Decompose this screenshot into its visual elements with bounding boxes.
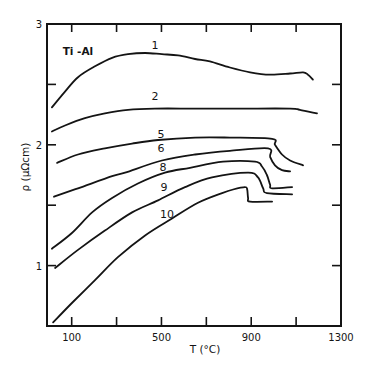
curve-label-9: 9	[160, 181, 167, 194]
y-axis-label: ρ (μΩcm)	[19, 143, 31, 192]
x-tick-label: 100	[62, 332, 81, 343]
curve-2	[52, 109, 317, 132]
curve-label-8: 8	[160, 161, 167, 174]
curve-label-5: 5	[158, 128, 165, 141]
curve-5	[57, 137, 303, 165]
curve-6	[54, 148, 290, 197]
x-tick-label: 500	[152, 332, 171, 343]
curve-label-6: 6	[158, 142, 165, 155]
x-tick-label: 900	[242, 332, 261, 343]
curve-label-2: 2	[151, 90, 158, 103]
curves-group	[52, 53, 317, 322]
y-tick-label: 1	[36, 261, 42, 272]
curve-label-1: 1	[151, 39, 158, 52]
x-axis-label: T (°C)	[189, 343, 221, 355]
chart-figure: 100500900130012312568910 T (°C) ρ (μΩcm)…	[0, 0, 367, 368]
y-tick-label: 2	[36, 140, 42, 151]
y-tick-label: 3	[36, 19, 42, 30]
curve-label-10: 10	[160, 208, 174, 221]
alloy-annotation: Ti -Al	[63, 45, 94, 57]
labels-group: 100500900130012312568910	[36, 19, 354, 343]
x-tick-label: 1300	[328, 332, 353, 343]
curve-1	[52, 53, 313, 107]
